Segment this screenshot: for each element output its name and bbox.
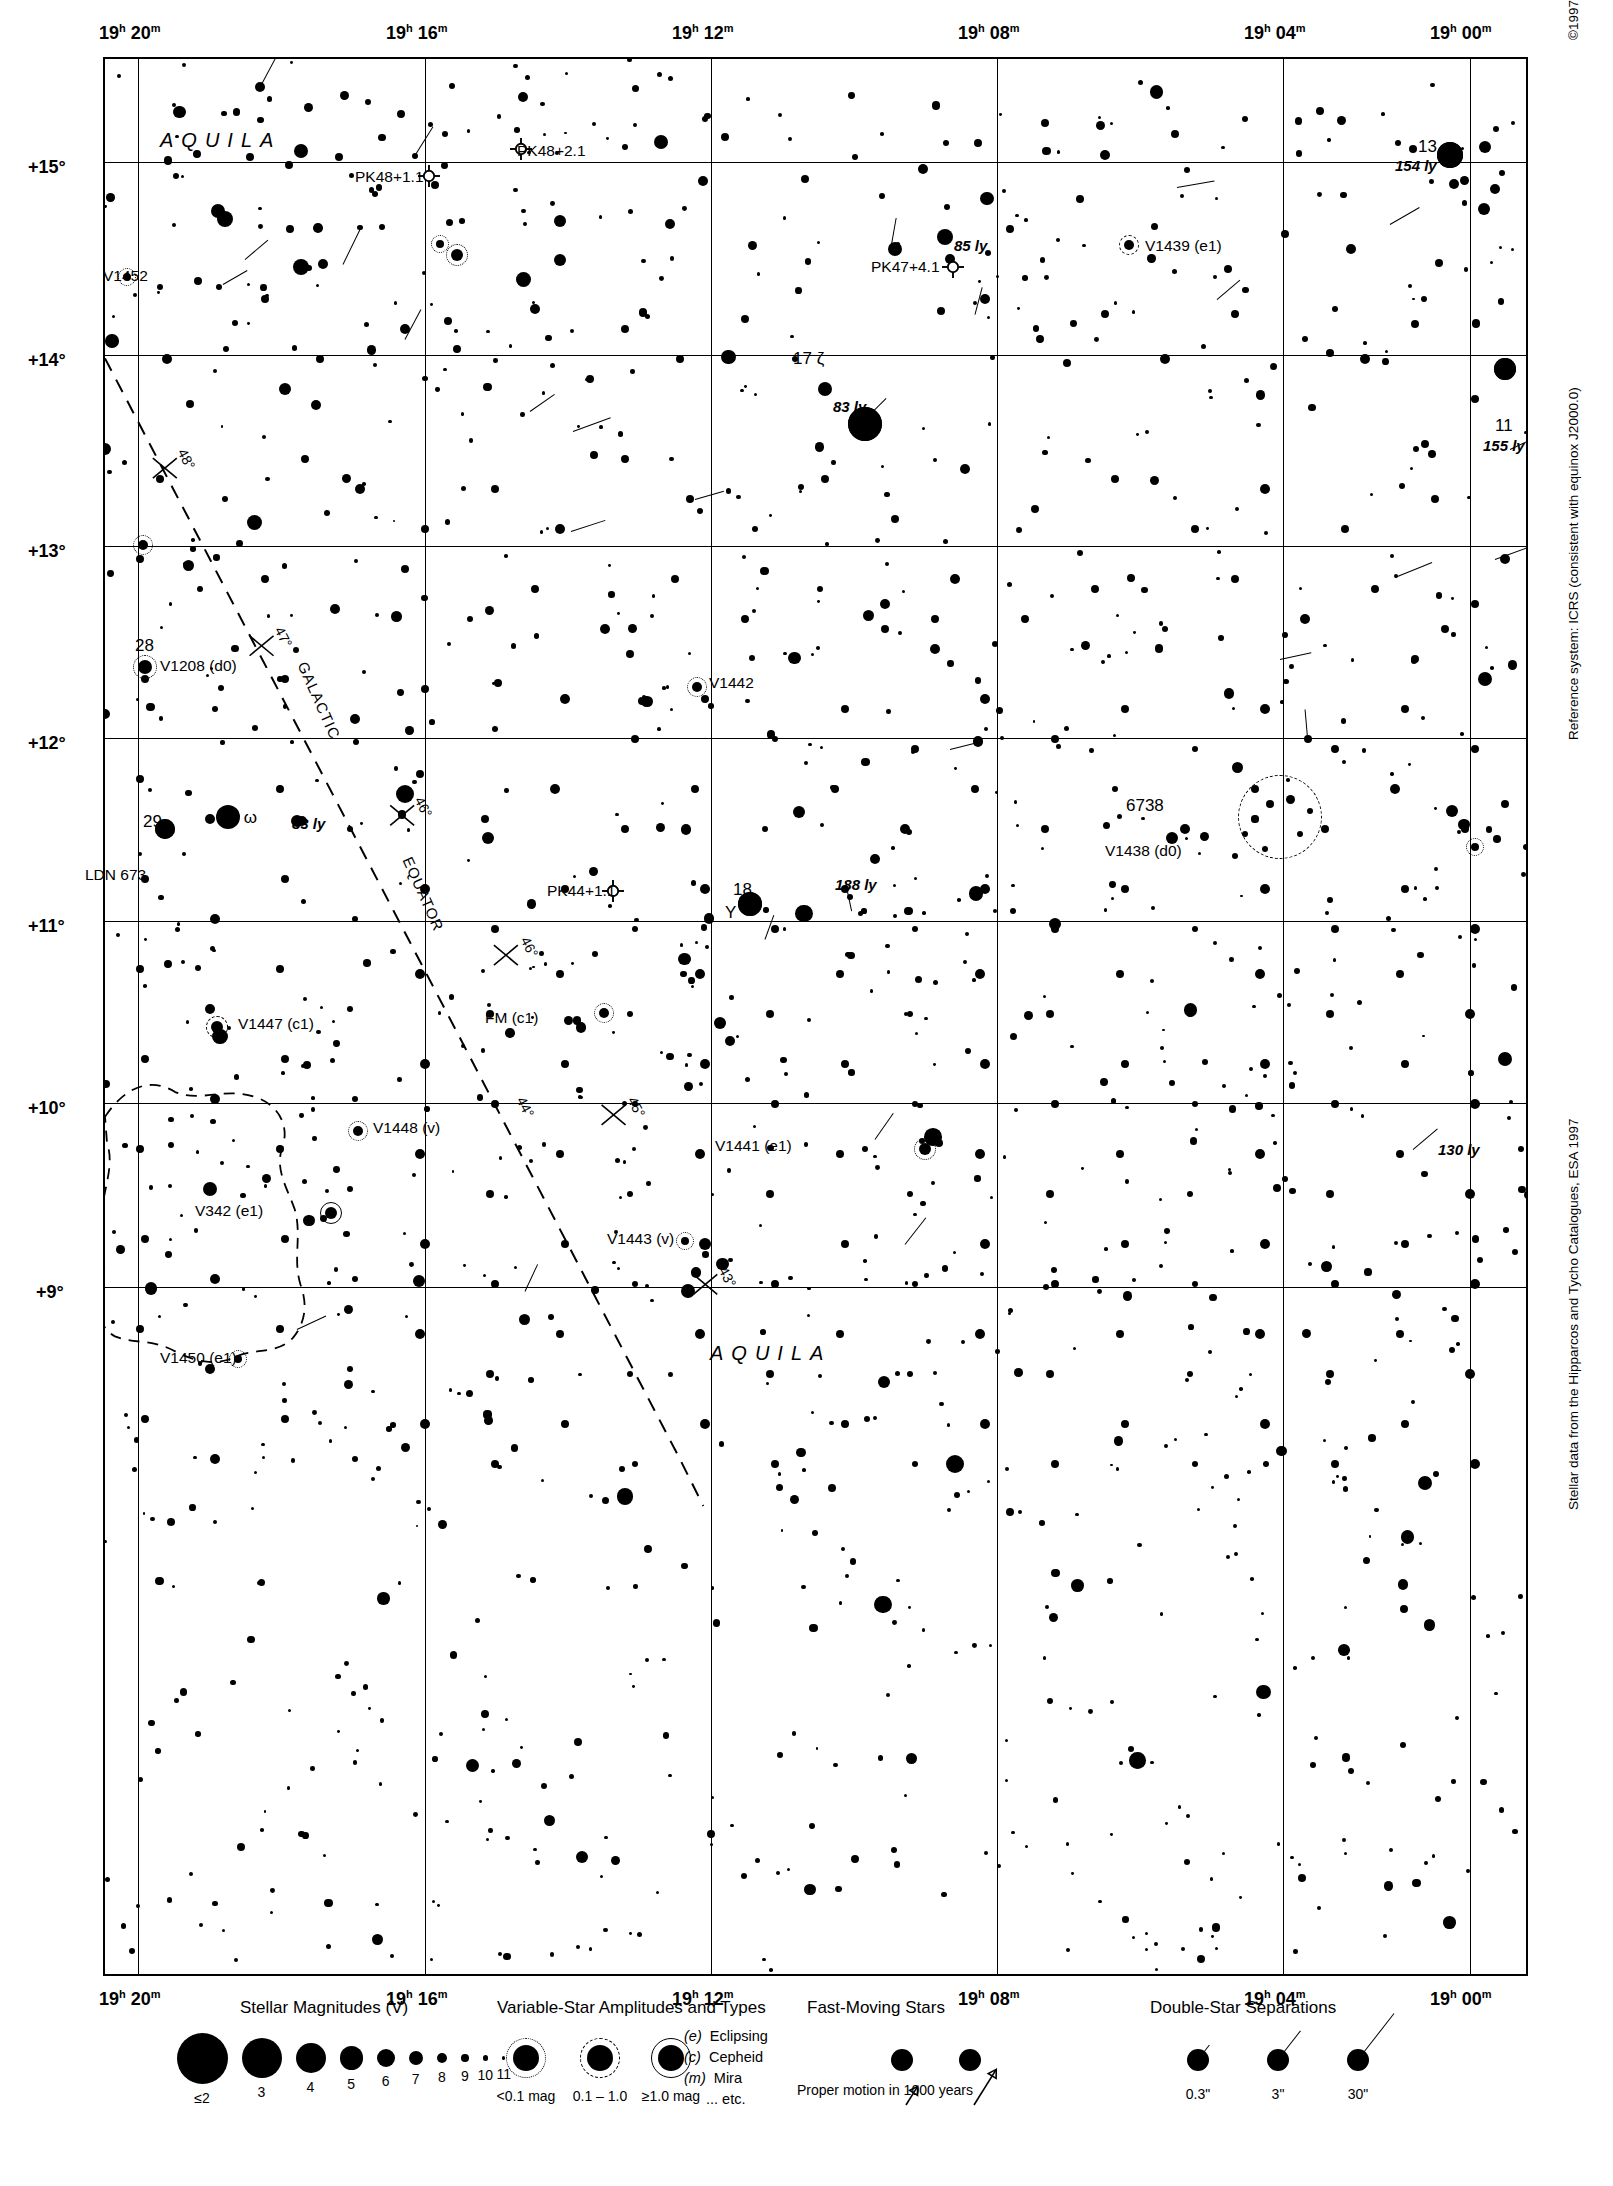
star-faint-1132 xyxy=(182,852,186,856)
star-faint-682 xyxy=(265,294,269,298)
star-faint-160 xyxy=(525,75,530,80)
star-faint-425 xyxy=(1164,1444,1168,1448)
star-faint-1000 xyxy=(1181,1947,1185,1951)
star-faint-985 xyxy=(362,670,366,674)
star-faint-437 xyxy=(1255,1102,1263,1110)
star-field-274 xyxy=(486,1370,494,1378)
dec-gridline-2 xyxy=(105,546,1526,547)
star-faint-439 xyxy=(996,707,1003,714)
star-field-108 xyxy=(881,625,889,633)
star-faint-614 xyxy=(374,516,378,520)
star-faint-284 xyxy=(511,1444,519,1452)
star-faint-411 xyxy=(990,1196,993,1199)
label-17-zeta: 17 ζ xyxy=(793,350,824,367)
star-faint-205 xyxy=(398,810,407,819)
star-field-59 xyxy=(741,315,749,323)
star-faint-845 xyxy=(953,1251,956,1254)
star-faint-761 xyxy=(1057,150,1061,154)
star-faint-766 xyxy=(218,685,224,691)
star-faint-544 xyxy=(1110,1700,1114,1704)
star-field-254 xyxy=(561,1240,569,1248)
star-faint-294 xyxy=(443,368,447,372)
star-faint-1093 xyxy=(1277,1842,1280,1845)
star-faint-1111 xyxy=(591,1286,599,1294)
star-faint-882 xyxy=(247,322,250,325)
star-field-109 xyxy=(950,574,960,584)
star-faint-323 xyxy=(1132,1936,1135,1939)
star-field-266 xyxy=(1401,1240,1409,1248)
star-field-102 xyxy=(467,616,473,622)
star-faint-61 xyxy=(105,205,107,208)
star-faint-330 xyxy=(168,1184,172,1188)
star-faint-348 xyxy=(1213,275,1217,279)
star-faint-732 xyxy=(1250,1577,1254,1581)
star-field-286 xyxy=(1326,1370,1334,1378)
star-faint-394 xyxy=(174,1698,178,1702)
star-faint-402 xyxy=(1239,1387,1242,1390)
star-field-147 xyxy=(481,815,489,823)
star-faint-353 xyxy=(742,555,746,559)
star-faint-246 xyxy=(915,976,922,983)
label-29: 29 xyxy=(143,813,162,830)
star-faint-730 xyxy=(874,1596,891,1613)
star-faint-961 xyxy=(662,686,666,690)
star-faint-1003 xyxy=(143,984,147,988)
star-field-131 xyxy=(841,705,849,713)
star-faint-393 xyxy=(886,1693,890,1697)
star-faint-368 xyxy=(1493,126,1499,132)
star-field-301 xyxy=(980,1419,990,1429)
star-faint-297 xyxy=(1235,507,1239,511)
star-faint-698 xyxy=(1435,259,1443,267)
star-faint-414 xyxy=(922,911,926,915)
star-faint-1006 xyxy=(924,1273,929,1278)
star-faint-184 xyxy=(479,1800,482,1803)
star-faint-391 xyxy=(710,1843,713,1846)
star-field-6 xyxy=(518,92,528,102)
star-field-149 xyxy=(621,825,629,833)
star-faint-848 xyxy=(858,911,863,916)
star-field-187 xyxy=(136,965,144,973)
star-faint-1108 xyxy=(1159,1264,1163,1268)
legend-magnitude-label-9: 9 xyxy=(454,2068,476,2084)
star-faint-304 xyxy=(332,1020,335,1023)
star-faint-194 xyxy=(688,652,691,655)
star-field-107 xyxy=(817,586,823,592)
star-faint-797 xyxy=(373,363,377,367)
star-faint-626 xyxy=(811,1411,814,1414)
star-faint-30 xyxy=(565,72,568,75)
star-faint-769 xyxy=(1016,824,1019,827)
star-faint-379 xyxy=(772,1281,778,1287)
star-faint-207 xyxy=(320,1006,324,1010)
star-field-49 xyxy=(232,320,238,326)
star-faint-704 xyxy=(862,1146,868,1152)
star-faint-245 xyxy=(1245,1094,1248,1097)
star-faint-236 xyxy=(627,59,632,62)
star-faint-447 xyxy=(1005,1467,1009,1471)
star-field-77 xyxy=(222,496,228,502)
star-field-86 xyxy=(821,475,829,483)
star-faint-1141 xyxy=(421,595,428,602)
star-faint-792 xyxy=(290,614,293,617)
star-85ly xyxy=(937,229,953,245)
star-faint-535 xyxy=(1264,531,1268,535)
star-faint-1135 xyxy=(288,1709,291,1712)
star-faint-145 xyxy=(1362,748,1366,752)
star-faint-517 xyxy=(833,1763,837,1767)
star-faint-448 xyxy=(1154,1942,1158,1946)
star-faint-243 xyxy=(254,1471,257,1474)
star-faint-416 xyxy=(1174,1438,1177,1441)
star-faint-907 xyxy=(122,460,127,465)
star-faint-925 xyxy=(1368,1434,1376,1442)
star-faint-916 xyxy=(413,1275,425,1287)
star-faint-619 xyxy=(719,1441,724,1446)
star-faint-455 xyxy=(371,1390,375,1394)
star-faint-355 xyxy=(1344,1606,1347,1609)
star-faint-172 xyxy=(576,1022,586,1032)
star-faint-972 xyxy=(1323,1439,1326,1442)
star-faint-126 xyxy=(795,905,812,922)
star-faint-1046 xyxy=(430,303,433,306)
star-faint-1009 xyxy=(519,1314,530,1325)
star-faint-608 xyxy=(1293,1666,1297,1670)
star-faint-592 xyxy=(1451,1779,1455,1783)
star-faint-392 xyxy=(412,1173,416,1177)
